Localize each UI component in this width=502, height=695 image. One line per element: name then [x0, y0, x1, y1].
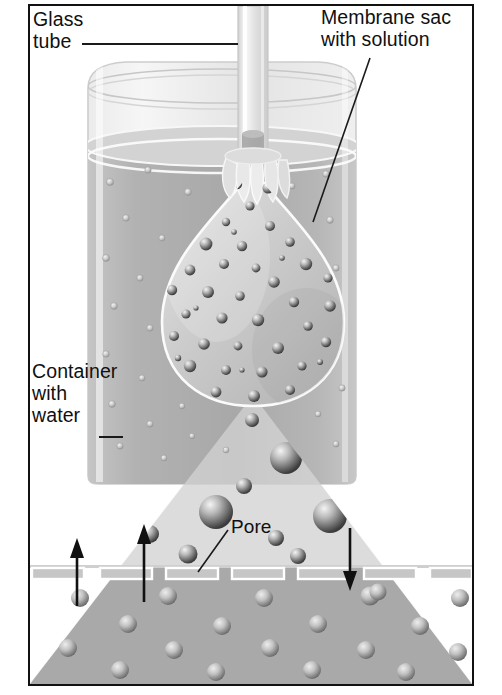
glass-tube-leader: [82, 43, 238, 45]
osmosis-figure: Glass tube Membrane sac with solution Co…: [0, 0, 502, 695]
label-pore: Pore: [231, 516, 272, 538]
pore-openings: [32, 568, 472, 579]
container-water-leader: [99, 436, 123, 438]
illustration-canvas: [30, 6, 472, 684]
label-container-with-water: Container with water: [32, 360, 117, 426]
label-membrane-sac: Membrane sac with solution: [321, 6, 451, 50]
label-glass-tube: Glass tube: [33, 8, 83, 52]
membrane-band: [30, 565, 472, 579]
